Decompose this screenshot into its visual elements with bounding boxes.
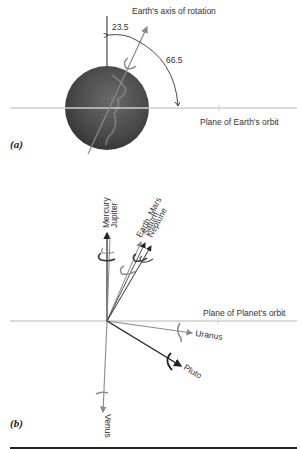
tilt-angle-value: 23.5 [112, 22, 129, 32]
panel-b-label: (b) [10, 417, 23, 430]
jupiter-rotation-icon [102, 248, 115, 253]
venus-axis [103, 321, 107, 412]
venus-rotation-icon [96, 392, 108, 394]
uranus-label: Uranus [195, 328, 224, 342]
uranus-rotation-icon [178, 323, 182, 342]
neptune-axis [107, 246, 151, 321]
pluto-label: Pluto [182, 362, 204, 381]
planet-orbit-plane-label: Plane of Planet's orbit [203, 308, 286, 318]
orbit-plane-label: Plane of Earth's orbit [200, 117, 279, 127]
tilt-angle-arc [108, 35, 136, 40]
pluto-axis [107, 321, 181, 366]
axis-of-rotation-label: Earth's axis of rotation [132, 6, 216, 16]
venus-label: Venus [103, 414, 113, 438]
jupiter-label: Jupiter [109, 202, 119, 228]
complement-angle-value: 66.5 [166, 55, 183, 65]
panel-a-label: (a) [10, 138, 23, 151]
axial-tilt-diagram: Earth's axis of rotation 23.5 66.5 Plane… [0, 0, 301, 449]
panel-b: Plane of Planet's orbit Mercury Jupiter … [10, 195, 297, 437]
pluto-rotation-icon [167, 353, 172, 370]
saturn-axis [107, 243, 145, 321]
panel-a: Earth's axis of rotation 23.5 66.5 Plane… [10, 6, 297, 154]
